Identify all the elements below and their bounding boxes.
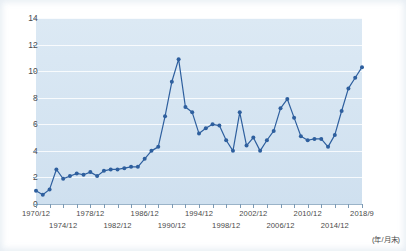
data-point-marker (197, 132, 201, 136)
x-axis-tick-label: 1994/12 (185, 209, 213, 218)
x-axis-tick-label: 1970/12 (22, 209, 50, 218)
x-axis-tick-mark (321, 204, 322, 208)
x-axis-tick-mark (240, 204, 241, 208)
data-point-marker (68, 174, 72, 178)
data-point-marker (170, 80, 174, 84)
chart-figure: 02468101214 1970/121978/121986/121994/12… (0, 0, 406, 251)
x-axis-tick-label: 1982/12 (103, 221, 131, 230)
data-point-marker (177, 57, 181, 61)
x-axis-tick-mark (362, 204, 363, 208)
x-axis-tick-mark (104, 204, 105, 208)
series-line-chart (36, 18, 362, 204)
data-point-marker (183, 105, 187, 109)
data-point-marker (231, 149, 235, 153)
data-point-marker (299, 134, 303, 138)
data-point-marker (346, 86, 350, 90)
data-point-marker (34, 189, 38, 193)
data-point-marker (312, 137, 316, 141)
data-point-marker (333, 133, 337, 137)
x-axis-tick-mark (63, 204, 64, 208)
data-point-marker (143, 157, 147, 161)
data-point-marker (224, 138, 228, 142)
x-axis-tick-mark (77, 204, 78, 208)
x-axis-tick-mark (36, 204, 37, 208)
x-axis-tick-mark (348, 204, 349, 208)
x-axis-tick-mark (185, 204, 186, 208)
data-point-marker (129, 165, 133, 169)
x-axis-tick-mark (158, 204, 159, 208)
data-point-marker (204, 126, 208, 130)
data-point-marker (136, 165, 140, 169)
data-point-marker (190, 110, 194, 114)
data-point-marker (285, 97, 289, 101)
x-axis-tick-mark (90, 204, 91, 208)
data-point-marker (258, 149, 262, 153)
y-axis-tick-mark (33, 177, 36, 178)
data-point-marker (54, 167, 58, 171)
data-point-marker (88, 170, 92, 174)
data-point-marker (319, 137, 323, 141)
data-point-marker (41, 193, 45, 197)
data-point-marker (156, 145, 160, 149)
data-point-marker (95, 174, 99, 178)
x-axis-tick-mark (253, 204, 254, 208)
x-axis-tick-label: 1978/12 (76, 209, 104, 218)
y-axis-tick-mark (33, 98, 36, 99)
data-point-marker (217, 124, 221, 128)
x-axis-tick-mark (172, 204, 173, 208)
data-point-marker (163, 114, 167, 118)
x-axis-tick-mark (213, 204, 214, 208)
x-axis-tick-mark (335, 204, 336, 208)
x-axis-tick-label: 1974/12 (49, 221, 77, 230)
data-point-marker (211, 122, 215, 126)
x-axis-tick-mark (131, 204, 132, 208)
x-axis-tick-mark (226, 204, 227, 208)
axis-note: (年/月末) (372, 233, 400, 244)
data-point-marker (292, 116, 296, 120)
y-axis-tick-mark (33, 18, 36, 19)
data-point-marker (245, 144, 249, 148)
data-point-marker (102, 169, 106, 173)
x-axis-tick-mark (145, 204, 146, 208)
data-point-marker (61, 177, 65, 181)
x-axis-tick-mark (294, 204, 295, 208)
data-point-marker (82, 173, 86, 177)
data-point-marker (149, 149, 153, 153)
data-point-marker (116, 167, 120, 171)
data-point-marker (238, 110, 242, 114)
x-axis-tick-mark (281, 204, 282, 208)
y-axis-tick-mark (33, 124, 36, 125)
y-axis-tick-mark (33, 45, 36, 46)
x-axis-tick-label: 2002/12 (239, 209, 267, 218)
x-axis-tick-label: 2006/12 (266, 221, 294, 230)
data-point-marker (279, 106, 283, 110)
data-point-marker (251, 136, 255, 140)
data-point-marker (326, 145, 330, 149)
y-axis-tick-mark (33, 151, 36, 152)
data-point-marker (340, 109, 344, 113)
x-axis-tick-label: 1998/12 (212, 221, 240, 230)
x-axis-tick-label: 2014/12 (321, 221, 349, 230)
data-point-marker (265, 138, 269, 142)
x-axis-tick-mark (118, 204, 119, 208)
data-point-marker (75, 171, 79, 175)
x-axis-tick-mark (308, 204, 309, 208)
data-point-marker (272, 129, 276, 133)
x-axis-tick-label: 1990/12 (158, 221, 186, 230)
x-axis-tick-label: 1986/12 (131, 209, 159, 218)
data-point-marker (306, 138, 310, 142)
data-point-marker (48, 187, 52, 191)
data-point-marker (122, 166, 126, 170)
data-point-marker (109, 167, 113, 171)
x-axis-tick-label: 2018/9 (350, 209, 374, 218)
x-axis-tick-mark (50, 204, 51, 208)
data-point-marker (360, 65, 364, 69)
x-axis-tick-label: 2010/12 (294, 209, 322, 218)
x-axis-tick-mark (199, 204, 200, 208)
data-point-marker (353, 76, 357, 80)
y-axis-tick-mark (33, 71, 36, 72)
x-axis-tick-mark (267, 204, 268, 208)
